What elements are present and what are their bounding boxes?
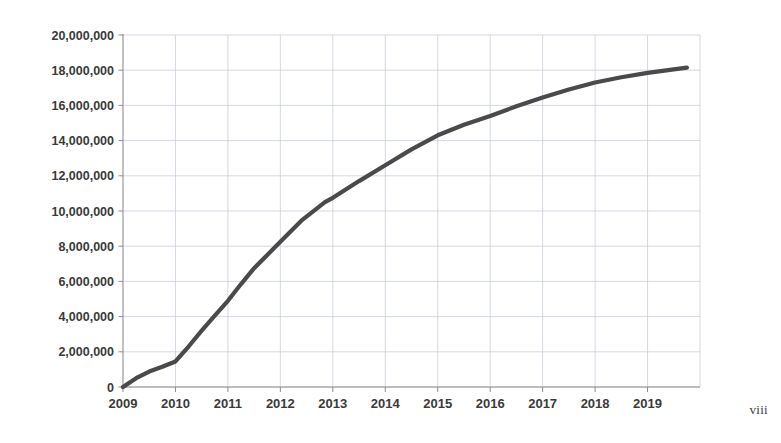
x-tick-label: 2011 [214, 396, 242, 411]
y-tick-label: 14,000,000 [51, 134, 114, 148]
y-tick-label: 2,000,000 [58, 345, 114, 359]
y-tick-label: 6,000,000 [58, 275, 114, 289]
data-series-group [123, 68, 687, 387]
x-tick-label: 2012 [266, 396, 295, 411]
y-tick-label: 16,000,000 [51, 99, 114, 113]
line-chart: 20,000,00018,000,00016,000,00014,000,000… [0, 0, 781, 443]
x-tick-label: 2014 [371, 396, 401, 411]
y-tick-label: 8,000,000 [58, 240, 114, 254]
y-tick-label: 20,000,000 [51, 29, 114, 43]
y-tick-label: 0 [107, 381, 114, 395]
y-tick-label: 12,000,000 [51, 169, 114, 183]
y-tick-label: 18,000,000 [51, 64, 114, 78]
y-axis-labels-group: 20,000,00018,000,00016,000,00014,000,000… [51, 29, 114, 395]
x-tick-label: 2017 [528, 396, 557, 411]
gridlines-group [123, 35, 700, 387]
x-tick-label: 2013 [318, 396, 347, 411]
x-axis-labels-group: 2009201020112012201320142015201620172018… [109, 396, 662, 411]
x-tick-label: 2015 [423, 396, 452, 411]
axes-group [123, 34, 700, 387]
chart-figure: 20,000,00018,000,00016,000,00014,000,000… [0, 0, 781, 443]
x-tick-label: 2009 [109, 396, 138, 411]
y-tick-label: 4,000,000 [58, 310, 114, 324]
x-tick-label: 2010 [161, 396, 190, 411]
page-folio: viii [749, 402, 768, 418]
data-series-line [123, 68, 687, 387]
y-tick-label: 10,000,000 [51, 205, 114, 219]
x-tick-label: 2016 [476, 396, 505, 411]
x-tick-label: 2018 [581, 396, 610, 411]
x-tick-label: 2019 [633, 396, 662, 411]
